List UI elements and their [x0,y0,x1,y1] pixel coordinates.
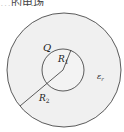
diagram: Q R1 R2 εr [0,0,124,132]
charge-label: Q [43,42,51,53]
